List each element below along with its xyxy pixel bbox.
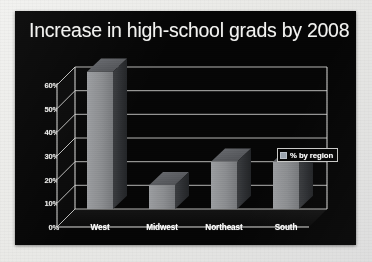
slide-photo-page: Increase in high-school grads by 2008 0%…	[0, 0, 372, 262]
y-axis-tick-60: 60%	[29, 81, 59, 90]
legend-entry-label: % by region	[290, 151, 333, 160]
presentation-slide: Increase in high-school grads by 2008 0%…	[15, 11, 356, 245]
y-axis-tick-40: 40%	[29, 128, 59, 137]
y-axis-tick-50: 50%	[29, 104, 59, 113]
bar-northeast	[211, 149, 251, 210]
y-axis-tick-20: 20%	[29, 175, 59, 184]
x-axis-tick-south: South	[275, 223, 298, 232]
chart-title: Increase in high-school grads by 2008	[29, 19, 345, 42]
y-axis-tick-30: 30%	[29, 152, 59, 161]
y-axis-tick-10: 10%	[29, 199, 59, 208]
y-axis-tick-labels: 0%10%20%30%40%50%60%	[27, 59, 59, 237]
y-axis-tick-0: 0%	[29, 223, 59, 232]
bar-west	[87, 59, 127, 209]
x-axis-tick-northeast: Northeast	[205, 223, 242, 232]
x-axis-tick-midwest: Midwest	[146, 223, 178, 232]
x-axis-tick-labels: WestMidwestNortheastSouth	[57, 217, 345, 237]
chart-legend: % by region	[277, 148, 338, 162]
legend-swatch-icon	[280, 152, 287, 159]
x-axis-tick-west: West	[90, 223, 109, 232]
